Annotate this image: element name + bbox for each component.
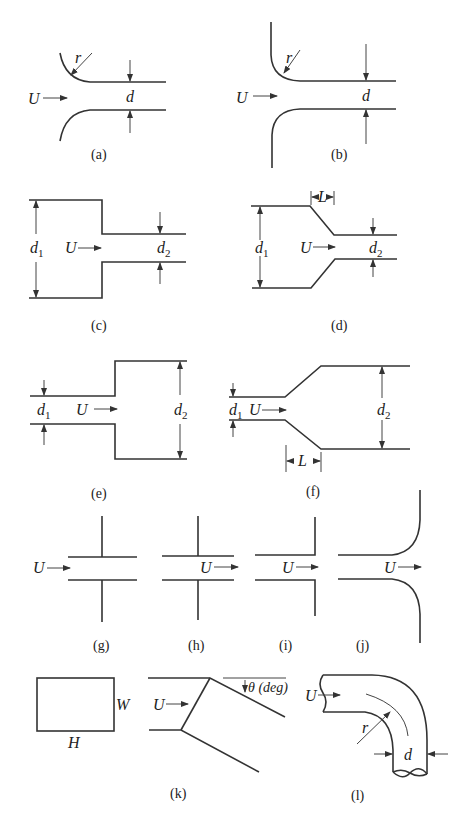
label-U: U	[300, 239, 313, 256]
panel-j: U (j)	[338, 490, 421, 654]
panel-a: r d U (a)	[28, 49, 166, 163]
label-r: r	[75, 49, 82, 66]
label-d2: d2	[174, 401, 188, 421]
label-L: L	[297, 452, 307, 469]
label-L: L	[317, 188, 327, 205]
panel-k: W H θ (deg) U (k)	[37, 678, 288, 802]
label-r: r	[286, 49, 293, 66]
caption-a: (a)	[91, 147, 107, 163]
label-d2: d2	[369, 239, 383, 259]
label-d1: d1	[30, 239, 44, 259]
caption-d: (d)	[331, 318, 348, 334]
label-U: U	[384, 559, 397, 576]
panel-c: d1 U d2 (c)	[29, 200, 186, 334]
caption-l: (l)	[351, 788, 365, 804]
panel-g: U (g)	[33, 516, 137, 654]
panel-f: d1 U d2 L (f)	[229, 366, 410, 500]
caption-f: (f)	[306, 484, 320, 500]
label-d: d	[362, 87, 371, 104]
label-U: U	[28, 90, 41, 107]
panel-l: r d U (l)	[305, 675, 448, 804]
label-U: U	[305, 687, 318, 704]
panel-e: d1 U d2 (e)	[30, 361, 188, 502]
panel-h: U (h)	[162, 516, 238, 654]
label-U: U	[65, 239, 78, 256]
panel-d: L d1 U d2 (d)	[251, 188, 397, 334]
caption-e: (e)	[91, 486, 107, 502]
label-U: U	[33, 559, 46, 576]
label-U: U	[249, 401, 262, 418]
caption-k: (k)	[170, 786, 187, 802]
label-U: U	[200, 559, 213, 576]
label-d2: d2	[377, 401, 391, 421]
label-d: d	[404, 746, 413, 763]
label-d: d	[126, 88, 135, 105]
label-d2: d2	[157, 239, 171, 259]
panel-i: U (i)	[255, 517, 318, 654]
pipe-fittings-diagram: r d U (a) r d U (b) d1 U d2 (c)	[0, 0, 473, 821]
label-U: U	[76, 401, 89, 418]
caption-c: (c)	[91, 318, 107, 334]
label-H: H	[67, 734, 81, 751]
label-theta: θ (deg)	[248, 680, 288, 696]
caption-j: (j)	[356, 638, 370, 654]
caption-i: (i)	[279, 638, 293, 654]
label-d1: d1	[229, 401, 243, 421]
caption-b: (b)	[331, 147, 348, 163]
cross-section-rect	[37, 678, 114, 731]
label-d1: d1	[37, 401, 51, 421]
caption-g: (g)	[93, 638, 110, 654]
label-U: U	[282, 559, 295, 576]
caption-h: (h)	[188, 638, 205, 654]
label-d1: d1	[255, 239, 269, 259]
label-U: U	[153, 696, 166, 713]
label-r: r	[362, 719, 369, 736]
label-U: U	[236, 89, 249, 106]
label-W: W	[116, 696, 131, 713]
panel-b: r d U (b)	[236, 22, 396, 168]
